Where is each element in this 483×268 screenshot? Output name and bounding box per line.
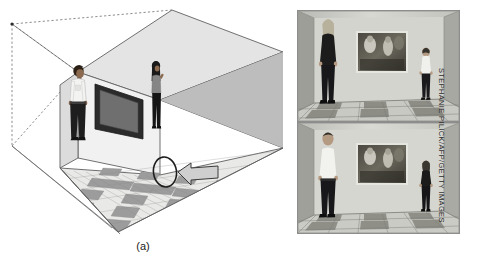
caption-panel-a: (a) xyxy=(118,240,168,252)
photo-top xyxy=(297,10,460,122)
photo-credit: STEPHANIE PILICK/AFP/GETTY IMAGES xyxy=(437,68,446,218)
panel-a-diagram: (a) xyxy=(0,0,283,268)
figure-root: (a) xyxy=(0,0,483,268)
photo-top-painting xyxy=(356,31,408,73)
ames-room-svg xyxy=(0,0,283,240)
photo-bottom-painting xyxy=(356,143,408,185)
panel-b-photos: (b) STEPHANIE PILICK/AFP/GETTY IMAGES xyxy=(283,0,483,268)
photo-top-svg xyxy=(298,11,459,121)
photo-bottom xyxy=(297,122,460,234)
floor-group xyxy=(52,148,283,240)
vanishing-point-dot xyxy=(10,22,13,25)
photo-bottom-svg xyxy=(298,123,459,233)
